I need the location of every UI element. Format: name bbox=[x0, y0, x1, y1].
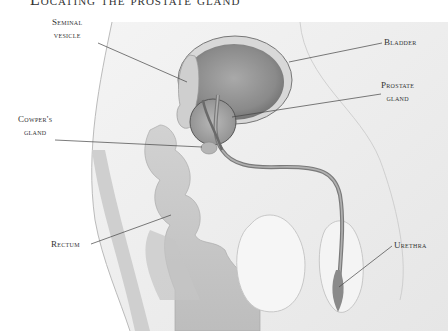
label-bladder: Bladder bbox=[384, 36, 416, 49]
label-cowpers-gland: Cowper's gland bbox=[18, 113, 52, 139]
label-line: gland bbox=[18, 126, 52, 139]
label-line: Seminal bbox=[52, 16, 82, 29]
label-line: Cowper's bbox=[18, 113, 52, 126]
anatomy-illustration bbox=[0, 0, 448, 331]
label-line: Prostate bbox=[381, 79, 414, 92]
label-line: gland bbox=[381, 92, 414, 105]
label-urethra: Urethra bbox=[394, 239, 427, 252]
cowpers-gland bbox=[201, 142, 217, 154]
label-line: Bladder bbox=[384, 36, 416, 49]
label-line: Rectum bbox=[51, 238, 80, 251]
anatomy-diagram: Locating the prostate gland bbox=[0, 0, 448, 331]
label-seminal-vesicle: Seminal vesicle bbox=[52, 16, 82, 42]
label-line: Urethra bbox=[394, 239, 427, 252]
label-prostate-gland: Prostate gland bbox=[381, 79, 414, 105]
label-line: vesicle bbox=[52, 29, 82, 42]
label-rectum: Rectum bbox=[51, 238, 80, 251]
prostate-gland bbox=[190, 99, 236, 145]
